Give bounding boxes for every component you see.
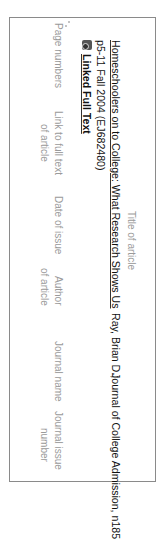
rotated-content: Homeschoolers on to College: What Resear… <box>10 18 157 483</box>
annotation-arrows <box>10 18 157 483</box>
citation-diagram-frame: Homeschoolers on to College: What Resear… <box>9 17 156 482</box>
